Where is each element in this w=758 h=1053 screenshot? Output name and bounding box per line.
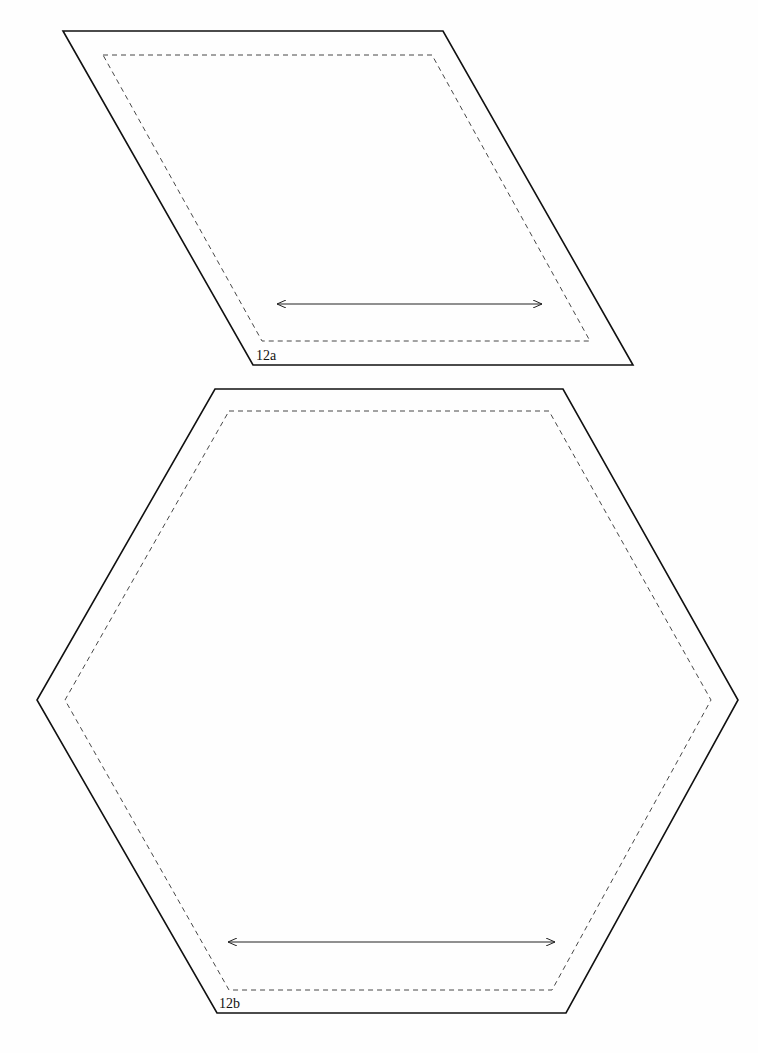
seam-allowance-line-12a xyxy=(103,55,590,341)
cut-line-12a xyxy=(63,31,633,365)
piece-label-12a: 12a xyxy=(256,348,277,363)
seam-allowance-line-12b xyxy=(65,411,711,990)
piece-label-12b: 12b xyxy=(219,996,240,1011)
pattern-drawing: 12a 12b xyxy=(0,0,758,1053)
pattern-sheet: 12a 12b xyxy=(0,0,758,1053)
piece-12a: 12a xyxy=(63,31,633,365)
piece-12b: 12b xyxy=(37,389,738,1013)
cut-line-12b xyxy=(37,389,738,1013)
